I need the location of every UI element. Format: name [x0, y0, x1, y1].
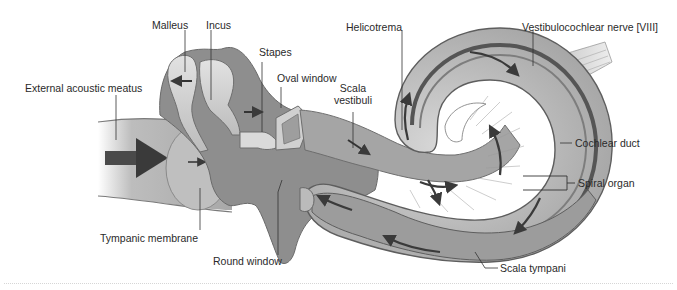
label-helicotrema: Helicotrema — [346, 21, 402, 33]
label-stapes: Stapes — [259, 46, 292, 58]
label-spiral-organ: Spiral organ — [578, 177, 635, 189]
ear-cochlea-diagram: Malleus Incus Stapes Oval window Externa… — [0, 0, 677, 290]
label-cochlear-duct: Cochlear duct — [575, 137, 640, 149]
label-scala-vestibuli-line1: Scala — [333, 82, 373, 94]
label-malleus: Malleus — [152, 19, 188, 31]
label-scala-vestibuli: Scala vestibuli — [333, 82, 373, 106]
label-round-window: Round window — [213, 255, 282, 267]
bottom-divider — [4, 283, 673, 284]
label-incus: Incus — [206, 19, 231, 31]
label-external-acoustic-meatus: External acoustic meatus — [25, 82, 142, 94]
label-scala-tympani: Scala tympani — [500, 262, 566, 274]
arrow-basilar-down-icon — [428, 180, 438, 200]
label-scala-vestibuli-line2: vestibuli — [333, 94, 373, 106]
label-vestibulocochlear-nerve: Vestibulocochlear nerve [VIII] — [522, 21, 658, 33]
arrow-basilar-right-icon — [420, 182, 452, 187]
label-tympanic-membrane: Tympanic membrane — [100, 232, 198, 244]
label-oval-window: Oval window — [277, 72, 337, 84]
